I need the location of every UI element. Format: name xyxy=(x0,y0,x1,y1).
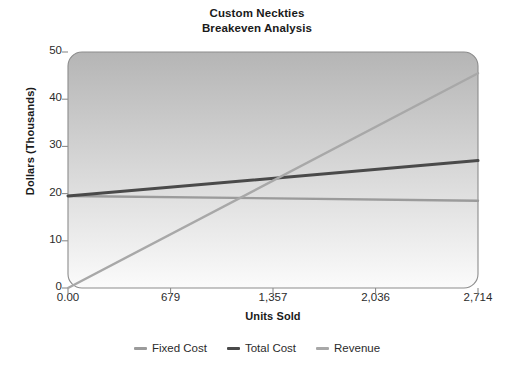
breakeven-chart: Custom Neckties Breakeven Analysis Dolla… xyxy=(0,0,514,377)
chart-legend: Fixed CostTotal CostRevenue xyxy=(0,342,514,354)
legend-swatch-fixed-cost xyxy=(134,347,147,350)
legend-label-fixed-cost: Fixed Cost xyxy=(152,342,207,354)
legend-swatch-revenue xyxy=(316,347,329,350)
legend-item-revenue[interactable]: Revenue xyxy=(316,342,380,354)
legend-item-total-cost[interactable]: Total Cost xyxy=(227,342,296,354)
legend-swatch-total-cost xyxy=(227,347,240,350)
legend-item-fixed-cost[interactable]: Fixed Cost xyxy=(134,342,207,354)
plot-background xyxy=(68,52,478,288)
plot-area xyxy=(0,0,514,377)
legend-label-revenue: Revenue xyxy=(334,342,380,354)
legend-label-total-cost: Total Cost xyxy=(245,342,296,354)
